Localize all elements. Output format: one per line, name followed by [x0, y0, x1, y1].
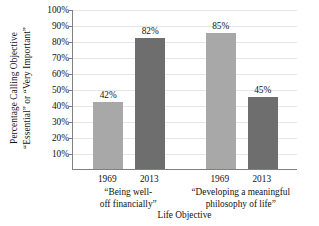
bar-value-label: 42%	[87, 90, 129, 100]
bar-value-label: 82%	[129, 26, 171, 36]
gridline	[73, 58, 297, 59]
y-axis-tick-label: 30%	[37, 117, 69, 127]
y-axis-tick	[69, 58, 73, 59]
y-axis-tick-label: 60%	[37, 69, 69, 79]
bar-beingwell-2013	[135, 38, 165, 169]
x-axis-year-label: 2013	[237, 174, 287, 185]
x-axis-title: Life Objective	[72, 210, 297, 221]
x-axis-group-label-line-2: off financially”	[76, 199, 180, 211]
y-axis-tick-label: 80%	[37, 37, 69, 47]
y-axis-tick-label: 10%	[37, 149, 69, 159]
x-axis-group-label: “Being well-off financially”	[76, 187, 180, 210]
y-axis-title: Percentage Calling Objective “Essential”…	[0, 0, 40, 175]
y-axis-tick	[69, 74, 73, 75]
plot-area: 42%82%85%45%	[72, 10, 297, 170]
y-axis-tick	[69, 26, 73, 27]
x-axis-group-label-line-1: “Developing a meaningful	[171, 187, 311, 199]
y-axis-title-line-1: Percentage Calling Objective	[8, 26, 21, 148]
bar-chart-figure: Percentage Calling Objective “Essential”…	[0, 0, 319, 226]
x-axis-group-label-line-1: “Being well-	[76, 187, 180, 199]
y-axis-title-line-2: “Essential” or “Very Important”	[20, 26, 33, 148]
y-axis-tick-labels: 100%90%80%70%60%50%40%30%20%10%	[37, 0, 69, 175]
gridline	[73, 42, 297, 43]
bar-beingwell-1969	[93, 102, 123, 169]
y-axis-tick-label: 20%	[37, 133, 69, 143]
y-axis-tick	[69, 122, 73, 123]
y-axis-tick-label: 90%	[37, 21, 69, 31]
y-axis-tick	[69, 10, 73, 11]
bar-developingameaningful-2013	[248, 97, 278, 169]
x-axis-group-label-line-2: philosophy of life”	[171, 199, 311, 211]
y-axis-tick	[69, 106, 73, 107]
bar-value-label: 85%	[200, 21, 242, 31]
x-axis-year-label: 2013	[124, 174, 174, 185]
y-axis-tick-label: 50%	[37, 85, 69, 95]
y-axis-tick	[69, 154, 73, 155]
x-axis-group-label: “Developing a meaningfulphilosophy of li…	[171, 187, 311, 210]
bar-value-label: 45%	[242, 85, 284, 95]
y-axis-tick	[69, 138, 73, 139]
y-axis-tick-label: 70%	[37, 53, 69, 63]
y-axis-tick-label: 100%	[37, 5, 69, 15]
gridline	[73, 10, 297, 11]
gridline	[73, 74, 297, 75]
y-axis-tick	[69, 42, 73, 43]
bar-developingameaningful-1969	[206, 33, 236, 169]
y-axis-tick-label: 40%	[37, 101, 69, 111]
gridline	[73, 26, 297, 27]
y-axis-tick	[69, 90, 73, 91]
